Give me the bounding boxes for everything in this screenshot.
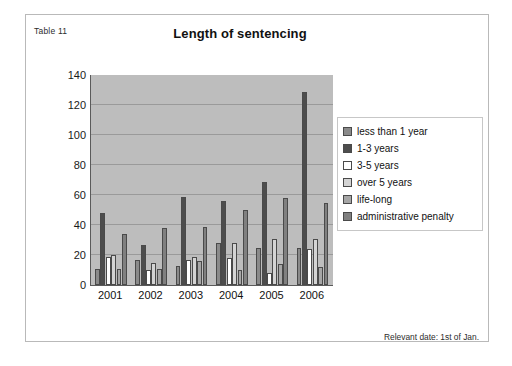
legend-swatch-icon: [343, 127, 352, 136]
x-tick-label: 2002: [138, 289, 162, 301]
x-tick-label: 2001: [98, 289, 122, 301]
bar: [122, 234, 127, 285]
legend-swatch-icon: [343, 195, 352, 204]
y-tick-label: 140: [40, 70, 86, 81]
bar: [162, 228, 167, 285]
bar: [146, 270, 151, 285]
legend-label: life-long: [357, 195, 392, 205]
legend-swatch-icon: [343, 178, 352, 187]
bar: [297, 248, 302, 286]
y-tick-label: 100: [40, 130, 86, 141]
bar: [216, 243, 221, 285]
legend-item: administrative penalty: [343, 208, 478, 225]
bar-group: [252, 75, 292, 285]
legend-item: over 5 years: [343, 174, 478, 191]
legend-label: 1-3 years: [357, 144, 399, 154]
legend-swatch-icon: [343, 212, 352, 221]
y-axis: 020406080100120140: [38, 75, 86, 287]
x-axis: 200120022003200420052006: [90, 289, 333, 307]
bar: [227, 258, 232, 285]
bar: [278, 264, 283, 285]
bar: [157, 269, 162, 286]
bar: [197, 261, 202, 285]
x-tick-label: 2003: [179, 289, 203, 301]
bar: [117, 269, 122, 286]
chart-title: Length of sentencing: [100, 26, 380, 41]
y-tick-label: 80: [40, 160, 86, 171]
bar: [283, 198, 288, 285]
legend-label: over 5 years: [357, 178, 412, 188]
bar: [192, 257, 197, 286]
bar: [111, 255, 116, 285]
bar: [100, 213, 105, 285]
bar: [203, 227, 208, 286]
bar: [186, 260, 191, 286]
bar: [324, 203, 329, 286]
legend-label: administrative penalty: [357, 212, 454, 222]
footnote: Relevant date: 1st of Jan.: [384, 332, 479, 342]
legend-item: 3-5 years: [343, 157, 478, 174]
bar: [318, 267, 323, 285]
x-tick-label: 2005: [259, 289, 283, 301]
bar: [141, 245, 146, 286]
bar-group: [172, 75, 212, 285]
bar: [106, 257, 111, 286]
bar: [95, 269, 100, 286]
bar: [232, 243, 237, 285]
x-tick-label: 2004: [219, 289, 243, 301]
legend-item: life-long: [343, 191, 478, 208]
bar-group: [131, 75, 171, 285]
bar: [238, 270, 243, 285]
bar: [135, 260, 140, 286]
bar: [307, 249, 312, 285]
legend-swatch-icon: [343, 161, 352, 170]
legend-item: 1-3 years: [343, 140, 478, 157]
bar: [267, 273, 272, 285]
y-tick-label: 120: [40, 100, 86, 111]
chart-legend: less than 1 year1-3 years3-5 yearsover 5…: [337, 117, 483, 231]
legend-label: 3-5 years: [357, 161, 399, 171]
bar-group: [212, 75, 252, 285]
bar: [176, 266, 181, 286]
y-tick-label: 0: [40, 280, 86, 291]
bar-group: [293, 75, 333, 285]
plot-area: [90, 75, 333, 286]
bar: [262, 182, 267, 286]
table-caption: Table 11: [34, 26, 67, 36]
figure-page: Table 11 Length of sentencing 0204060801…: [0, 0, 512, 366]
x-tick-label: 2006: [300, 289, 324, 301]
bar-group: [91, 75, 131, 285]
legend-item: less than 1 year: [343, 123, 478, 140]
y-tick-label: 40: [40, 220, 86, 231]
legend-swatch-icon: [343, 144, 352, 153]
legend-label: less than 1 year: [357, 127, 428, 137]
bar: [243, 210, 248, 285]
bar: [181, 197, 186, 286]
bar: [151, 263, 156, 286]
bar: [313, 239, 318, 286]
plot-wrapper: [90, 75, 333, 286]
y-tick-label: 60: [40, 190, 86, 201]
bar: [221, 201, 226, 285]
bar: [302, 92, 307, 286]
bar: [256, 248, 261, 286]
bar: [272, 239, 277, 286]
y-tick-label: 20: [40, 250, 86, 261]
